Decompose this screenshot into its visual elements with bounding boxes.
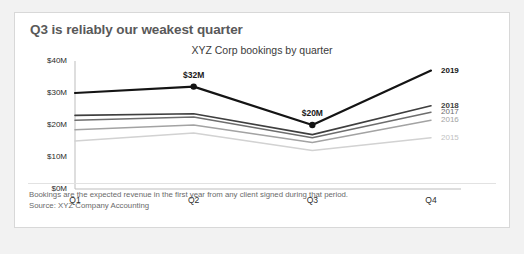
footnote: Bookings are the expected revenue in the… — [29, 189, 348, 211]
footnote-divider — [28, 183, 496, 184]
data-point-marker — [190, 83, 196, 89]
series-label-2015: 2015 — [441, 133, 459, 142]
footnote-line-1: Bookings are the expected revenue in the… — [29, 189, 348, 200]
series-label-2016: 2016 — [441, 115, 459, 124]
x-axis-tick-label: Q4 — [411, 195, 451, 205]
y-axis-tick-label: $30M — [23, 88, 67, 97]
chart-card: Q3 is reliably our weakest quarter XYZ C… — [14, 12, 510, 228]
data-point-label: $32M — [174, 70, 214, 80]
data-point-label: $20M — [292, 108, 332, 118]
y-axis-tick-label: $20M — [23, 120, 67, 129]
series-line-2019 — [75, 71, 431, 125]
y-axis-tick-label: $40M — [23, 56, 67, 65]
series-label-2019: 2019 — [441, 66, 459, 75]
data-point-marker — [309, 122, 315, 128]
y-axis-tick-label: $10M — [23, 152, 67, 161]
series-line-2015 — [75, 133, 431, 151]
footnote-line-2: Source: XYZ Company Accounting — [29, 200, 348, 211]
